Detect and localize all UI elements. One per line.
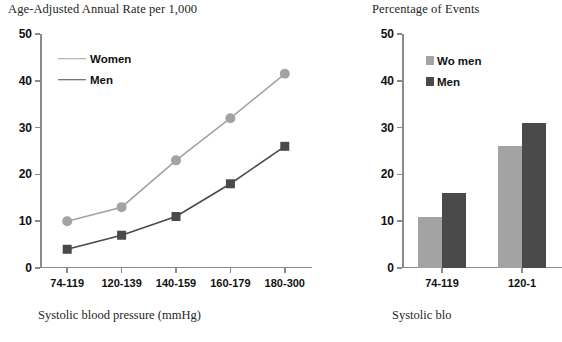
- men-swatch-icon: [426, 77, 434, 86]
- bar-chart-y-tick: [397, 174, 402, 176]
- line-chart-y-tick-label: 50: [19, 27, 32, 41]
- bar-chart-x-tick-label: 74-119: [425, 277, 459, 289]
- legend-label-men: Men: [437, 76, 460, 88]
- bar-chart-legend: Wo men Men: [426, 50, 482, 92]
- bar-chart-y-tick-label: 50: [381, 27, 394, 41]
- line-chart-x-tick-label: 160-179: [210, 277, 250, 289]
- data-point-women: [280, 69, 290, 79]
- bar-chart-title: Percentage of Events: [372, 2, 480, 17]
- women-circle-icon: [58, 53, 86, 65]
- line-chart-legend: Women Men: [58, 48, 131, 90]
- data-point-women: [171, 155, 181, 165]
- line-chart-y-tick: [35, 220, 40, 222]
- legend-item-men: Men: [58, 69, 131, 90]
- line-chart-y-tick: [35, 174, 40, 176]
- bar-chart-y-tick: [397, 267, 402, 269]
- legend-item-women: Wo men: [426, 50, 482, 71]
- bar-chart-axis-caption: Systolic blo: [392, 308, 451, 323]
- line-chart-axis-caption: Systolic blood pressure (mmHg): [38, 308, 201, 323]
- line-chart-panel: Age-Adjusted Annual Rate per 1,000 01020…: [0, 0, 330, 342]
- bar-chart-y-tick: [397, 220, 402, 222]
- data-point-men: [226, 179, 235, 188]
- line-chart-y-tick-label: 10: [19, 214, 32, 228]
- women-swatch-icon: [426, 56, 434, 65]
- data-point-women: [117, 202, 127, 212]
- line-chart-y-tick-label: 30: [19, 121, 32, 135]
- bar-chart-y-tick-label: 0: [387, 261, 394, 275]
- data-point-men: [280, 142, 289, 151]
- data-point-women: [62, 216, 72, 226]
- bar-chart-y-tick-label: 10: [381, 214, 394, 228]
- bar-men: [522, 123, 546, 268]
- line-chart-x-tick: [284, 268, 286, 273]
- line-chart-y-tick: [35, 33, 40, 35]
- line-chart-x-tick: [66, 268, 68, 273]
- line-chart-x-tick-label: 180-300: [265, 277, 305, 289]
- data-point-men: [63, 245, 72, 254]
- line-chart-x-tick: [230, 268, 232, 273]
- bar-chart-x-tick: [521, 268, 523, 273]
- line-chart-y-tick-label: 0: [25, 261, 32, 275]
- bar-chart-x-tick-label: 120-1: [508, 277, 536, 289]
- line-series-women: [67, 74, 285, 221]
- legend-label-women: Wo men: [437, 55, 482, 67]
- bar-chart-x-tick: [441, 268, 443, 273]
- bar-wo-men: [418, 217, 442, 268]
- bar-men: [442, 193, 466, 268]
- line-chart-x-tick: [121, 268, 123, 273]
- line-chart-y-tick-label: 20: [19, 167, 32, 181]
- bar-chart-y-axis: [402, 34, 404, 268]
- line-chart-x-tick-label: 120-139: [101, 277, 141, 289]
- data-point-women: [225, 113, 235, 123]
- bar-chart-y-tick: [397, 33, 402, 35]
- legend-label-women: Women: [90, 53, 131, 65]
- line-chart-x-tick-label: 140-159: [156, 277, 196, 289]
- men-square-icon: [58, 74, 86, 86]
- legend-item-men: Men: [426, 71, 482, 92]
- bar-chart-y-tick: [397, 127, 402, 129]
- line-chart-title: Age-Adjusted Annual Rate per 1,000: [8, 2, 197, 17]
- data-point-men: [117, 231, 126, 240]
- bar-chart-y-tick: [397, 80, 402, 82]
- legend-label-men: Men: [90, 74, 113, 86]
- bar-wo-men: [498, 146, 522, 268]
- line-chart-x-tick-label: 74-119: [50, 277, 84, 289]
- bar-chart-panel: Percentage of Events 0102030405074-11912…: [330, 0, 513, 342]
- bar-chart-y-tick-label: 30: [381, 121, 394, 135]
- line-chart-x-tick: [175, 268, 177, 273]
- data-point-men: [172, 212, 181, 221]
- line-chart-y-tick: [35, 80, 40, 82]
- legend-item-women: Women: [58, 48, 131, 69]
- line-chart-y-tick: [35, 267, 40, 269]
- line-chart-y-tick: [35, 127, 40, 129]
- bar-chart-y-tick-label: 40: [381, 74, 394, 88]
- line-chart-y-tick-label: 40: [19, 74, 32, 88]
- bar-chart-y-tick-label: 20: [381, 167, 394, 181]
